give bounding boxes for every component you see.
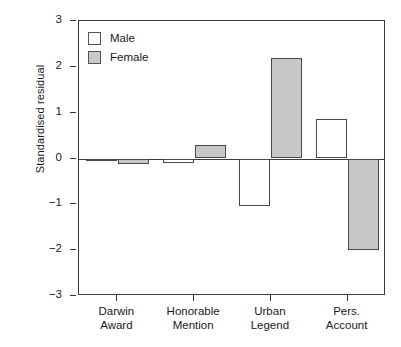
x-tick-label-line: Account — [302, 318, 392, 332]
y-tick-label: 3 — [40, 14, 62, 26]
chart-legend: MaleFemale — [88, 29, 178, 67]
bar-pers-account-male — [316, 119, 347, 158]
y-tick-mark — [70, 112, 76, 113]
x-tick-label-line: Pers. — [302, 304, 392, 318]
x-tick-label: Pers.Account — [302, 304, 392, 332]
x-axis-tick-marks — [78, 295, 385, 303]
legend-item-male: Male — [88, 29, 178, 48]
bar-pers-account-female — [348, 159, 379, 251]
x-tick-mark — [270, 295, 271, 301]
y-tick-mark — [70, 203, 76, 204]
bar-urban-legend-male — [239, 159, 270, 207]
legend-label: Female — [110, 52, 148, 64]
standardised-residual-bar-chart: Standardised residual 3210−1−2−3 DarwinA… — [0, 0, 401, 347]
y-tick-mark — [70, 158, 76, 159]
y-tick-label: −2 — [40, 243, 62, 255]
bar-honorable-mention-male — [163, 159, 194, 164]
y-tick-mark — [70, 66, 76, 67]
y-tick-label: −1 — [40, 197, 62, 209]
legend-swatch-female — [88, 51, 101, 64]
y-tick-label: 0 — [40, 152, 62, 164]
bar-darwin-award-female — [118, 159, 149, 165]
y-axis-tick-marks — [70, 0, 78, 347]
x-axis-tick-labels: DarwinAwardHonorableMentionUrbanLegendPe… — [78, 304, 385, 344]
x-tick-mark — [193, 295, 194, 301]
x-tick-mark — [347, 295, 348, 301]
y-tick-mark — [70, 249, 76, 250]
y-tick-label: 2 — [40, 60, 62, 72]
y-tick-label: −3 — [40, 289, 62, 301]
legend-item-female: Female — [88, 48, 178, 67]
y-axis-tick-labels: 3210−1−2−3 — [36, 0, 62, 347]
bar-darwin-award-male — [86, 159, 117, 162]
bar-honorable-mention-female — [195, 145, 226, 158]
y-tick-label: 1 — [40, 106, 62, 118]
bar-urban-legend-female — [271, 58, 302, 159]
legend-label: Male — [110, 33, 135, 45]
legend-swatch-male — [88, 32, 101, 45]
y-tick-mark — [70, 295, 76, 296]
y-tick-mark — [70, 20, 76, 21]
x-tick-mark — [116, 295, 117, 301]
